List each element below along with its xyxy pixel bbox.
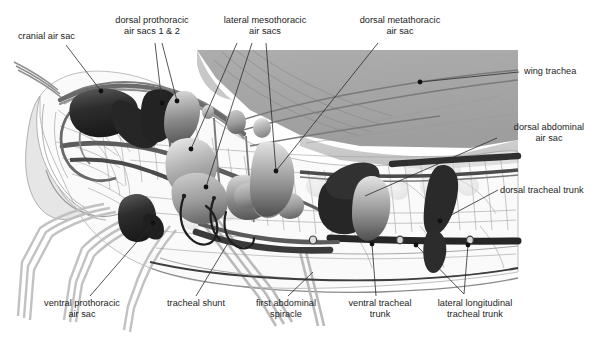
label-ventral-tracheal-trunk: ventral trachealtrunk [338, 298, 422, 320]
label-lateral-longitudinal-tracheal-trunk: lateral longitudinaltracheal trunk [423, 298, 527, 320]
label-line: dorsal metathoracic [348, 15, 452, 26]
label-line: wing trachea [524, 66, 604, 77]
anatomical-figure: cranial air sacdorsal prothoracicair sac… [0, 0, 609, 341]
anchor-dot-cranial-air-sac-0 [99, 89, 104, 94]
anchor-dot-lateral-mesothoracic-air-sacs-0 [189, 147, 194, 152]
label-cranial-air-sac: cranial air sac [18, 31, 108, 42]
label-dorsal-prothoracic-air-sacs: dorsal prothoracicair sacs 1 & 2 [104, 15, 200, 37]
label-first-abdominal-spiracle: first abdominalspiracle [240, 298, 332, 320]
label-line: spiracle [240, 309, 332, 320]
label-dorsal-tracheal-trunk: dorsal tracheal trunk [500, 185, 608, 196]
label-line: trunk [338, 309, 422, 320]
anchor-dot-lateral-mesothoracic-air-sacs-1 [204, 185, 209, 190]
anchor-dot-ventral-tracheal-trunk-0 [370, 242, 375, 247]
label-line: air sac [30, 309, 134, 320]
anchor-dot-dorsal-prothoracic-air-sacs-1 [175, 99, 180, 104]
label-line: tracheal shunt [151, 298, 241, 309]
label-line: ventral tracheal [338, 298, 422, 309]
label-line: dorsal prothoracic [104, 15, 200, 26]
label-line: ventral prothoracic [30, 298, 134, 309]
label-line: tracheal trunk [423, 309, 527, 320]
label-line: dorsal abdominal [497, 122, 601, 133]
anchor-dot-dorsal-prothoracic-air-sacs-0 [160, 101, 165, 106]
anchor-dot-dorsal-tracheal-trunk-0 [438, 219, 443, 224]
anchor-dot-ventral-prothoracic-air-sac-0 [151, 221, 156, 226]
label-line: air sac [497, 133, 601, 144]
label-dorsal-metathoracic-air-sac: dorsal metathoracicair sac [348, 15, 452, 37]
label-line: air sacs [213, 26, 317, 37]
label-line: dorsal tracheal trunk [500, 185, 608, 196]
label-line: lateral longitudinal [423, 298, 527, 309]
label-dorsal-abdominal-air-sac: dorsal abdominalair sac [497, 122, 601, 144]
label-line: first abdominal [240, 298, 332, 309]
tracheal-system-illustration [0, 0, 609, 341]
anchor-dot-wing-trachea-0 [418, 80, 423, 85]
label-line: air sac [348, 26, 452, 37]
anchor-dot-lateral-longitudinal-tracheal-trunk-0 [414, 243, 419, 248]
label-line: lateral mesothoracic [213, 15, 317, 26]
label-wing-trachea: wing trachea [524, 66, 604, 77]
label-ventral-prothoracic-air-sac: ventral prothoracicair sac [30, 298, 134, 320]
anchor-dot-lateral-longitudinal-tracheal-trunk-1 [466, 243, 471, 248]
label-tracheal-shunt: tracheal shunt [151, 298, 241, 309]
label-line: cranial air sac [18, 31, 108, 42]
label-line: air sacs 1 & 2 [104, 26, 200, 37]
label-lateral-mesothoracic-air-sacs: lateral mesothoracicair sacs [213, 15, 317, 37]
